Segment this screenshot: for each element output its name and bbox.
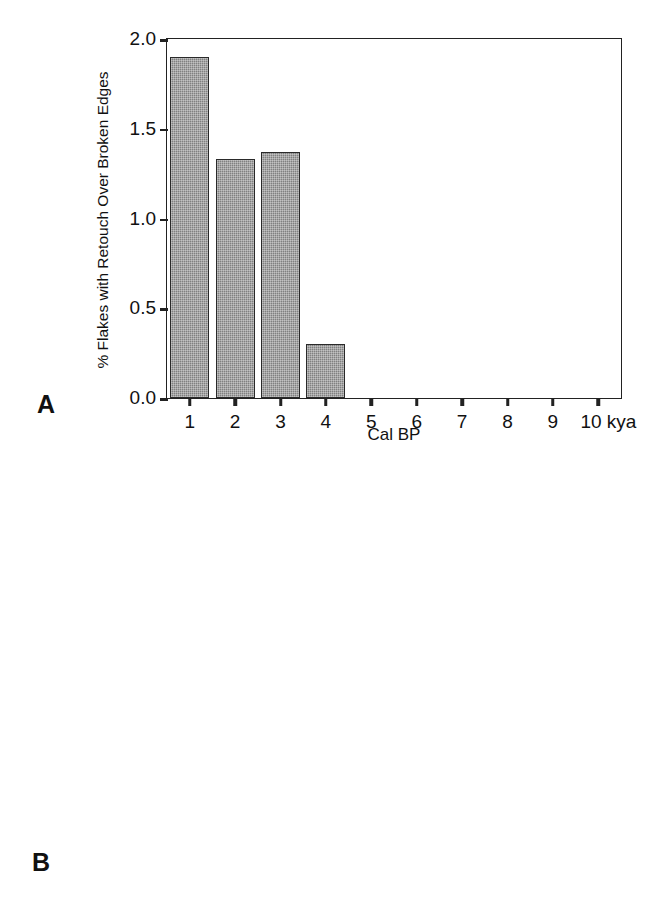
x-tick-mark	[324, 398, 328, 406]
y-tick-label: 0.0	[130, 387, 156, 409]
bar	[306, 344, 345, 398]
plot-area-a: 0.00.51.01.52.0 12345678910 kya	[166, 38, 622, 399]
x-axis-title-a: Cal BP	[166, 425, 622, 445]
panel-letter-b: B	[32, 848, 50, 877]
y-tick-mark	[160, 129, 168, 132]
chart-panel-b: B % Flakes With Fresh Scars Over Old Wea…	[0, 450, 667, 901]
x-tick-mark	[506, 398, 510, 406]
x-tick-mark	[279, 398, 283, 406]
y-tick-label: 1.5	[130, 118, 156, 140]
x-tick-mark	[460, 398, 464, 406]
x-tick-mark	[415, 398, 419, 406]
bar	[216, 159, 255, 398]
x-tick-mark	[551, 398, 555, 406]
y-tick-mark	[160, 398, 168, 401]
x-tick-mark	[188, 398, 192, 406]
x-tick-mark	[597, 398, 601, 406]
chart-panel-a: A % Flakes with Retouch Over Broken Edge…	[0, 0, 667, 450]
y-tick-label: 2.0	[130, 28, 156, 50]
y-axis-title-a: % Flakes with Retouch Over Broken Edges	[94, 36, 111, 404]
panel-letter-a: A	[37, 390, 55, 419]
figure-root: A % Flakes with Retouch Over Broken Edge…	[0, 0, 667, 901]
y-tick-mark	[160, 219, 168, 222]
bar	[170, 57, 209, 398]
x-tick-mark	[233, 398, 237, 406]
y-tick-label: 0.5	[130, 297, 156, 319]
y-tick-label: 1.0	[130, 208, 156, 230]
x-tick-mark	[370, 398, 374, 406]
y-tick-mark	[160, 39, 168, 42]
bar	[261, 152, 300, 398]
y-tick-mark	[160, 308, 168, 311]
bar-series-a	[167, 39, 621, 398]
